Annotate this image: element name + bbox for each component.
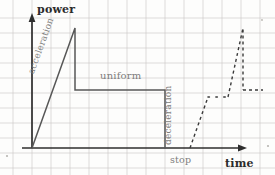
power-time-chart: power time acceleration uniform decelera…	[0, 0, 275, 175]
x-axis	[22, 145, 247, 152]
annotation-stop: stop	[170, 155, 191, 165]
x-axis-label: time	[225, 158, 254, 169]
y-axis-label: power	[37, 4, 75, 15]
annotation-deceleration: deceleration	[164, 86, 173, 145]
power-curve-solid	[32, 28, 165, 148]
power-curve-dashed-ramp	[190, 97, 208, 148]
annotation-uniform: uniform	[100, 71, 141, 81]
